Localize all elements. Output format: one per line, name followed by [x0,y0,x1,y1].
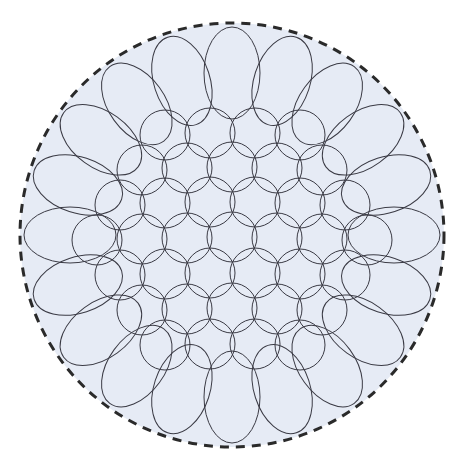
circle-pattern-diagram [0,0,465,471]
dashed-boundary-circle [20,23,444,447]
